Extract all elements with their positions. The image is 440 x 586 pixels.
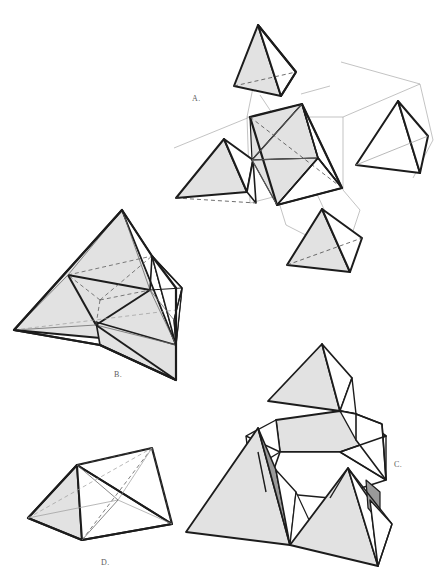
geometry-plate <box>0 0 440 586</box>
figure-label-b: B. <box>114 370 122 379</box>
figure-label-d: D. <box>101 558 110 567</box>
figure-label-c: C. <box>394 460 402 469</box>
figure-label-a: A. <box>192 94 201 103</box>
